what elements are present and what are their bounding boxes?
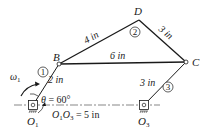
joint-c [184, 60, 188, 64]
dim-o1b: 2 in [48, 74, 63, 85]
label-c: C [192, 56, 200, 68]
link-1-badge: 1 [38, 67, 48, 77]
label-b: B [53, 51, 60, 63]
link-bd [59, 20, 139, 64]
label-o3: O3 [138, 115, 150, 129]
svg-text:1: 1 [41, 67, 46, 77]
theta-arc-upper [30, 94, 38, 96]
omega-arrowhead-icon [35, 82, 40, 87]
link-3-badge: 3 [163, 82, 173, 92]
svg-text:2: 2 [133, 27, 138, 37]
label-d: D [133, 5, 142, 17]
svg-text:3: 3 [166, 82, 171, 92]
link-bc [59, 62, 186, 64]
dim-o3c: 3 in [139, 77, 155, 88]
ground-pivot-o1 [29, 101, 38, 114]
linkage-diagram: 1 2 3 B D C O1 O3 4 in 3 in 6 in 2 in 3 … [0, 0, 208, 129]
link-2-badge: 2 [130, 27, 140, 37]
label-o1: O1 [27, 115, 39, 129]
ground-pivot-o3 [140, 101, 149, 114]
theta-label: θ = 60° [41, 94, 71, 105]
omega-label: ω1 [10, 71, 21, 84]
ground-length-label: O1O3 = 5 in [52, 109, 99, 122]
dim-bc: 6 in [110, 50, 125, 61]
